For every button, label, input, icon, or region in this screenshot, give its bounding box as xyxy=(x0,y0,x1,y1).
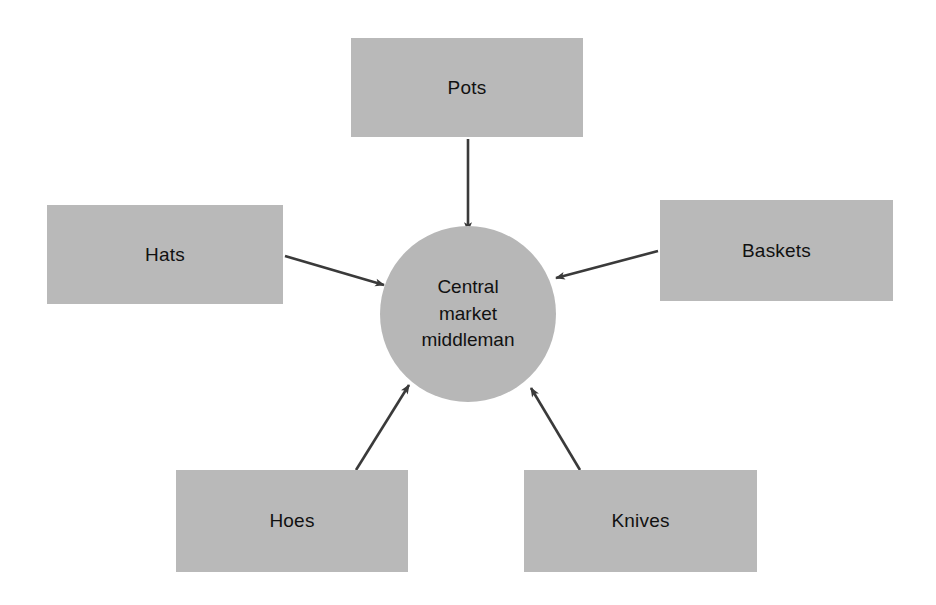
node-hoes-label: Hoes xyxy=(269,510,314,532)
node-pots-label: Pots xyxy=(448,77,487,99)
arrow-knives-to-hub xyxy=(531,388,580,470)
node-hats-label: Hats xyxy=(145,244,185,266)
node-baskets-label: Baskets xyxy=(742,240,811,262)
arrow-hoes-to-hub xyxy=(356,385,409,470)
node-hoes[interactable]: Hoes xyxy=(176,470,408,572)
arrow-hats-to-hub xyxy=(285,256,384,285)
node-central-market-middleman[interactable]: Central market middleman xyxy=(380,226,556,402)
node-pots[interactable]: Pots xyxy=(351,38,583,137)
node-baskets[interactable]: Baskets xyxy=(660,200,893,301)
hub-label-line-3: middleman xyxy=(422,327,515,354)
node-knives[interactable]: Knives xyxy=(524,470,757,572)
hub-label-line-1: Central xyxy=(437,274,498,301)
arrow-baskets-to-hub xyxy=(556,251,658,278)
diagram-canvas: Pots Hats Baskets Hoes Knives Central ma… xyxy=(0,0,936,605)
node-knives-label: Knives xyxy=(611,510,669,532)
hub-label-line-2: market xyxy=(439,301,497,328)
node-hats[interactable]: Hats xyxy=(47,205,283,304)
